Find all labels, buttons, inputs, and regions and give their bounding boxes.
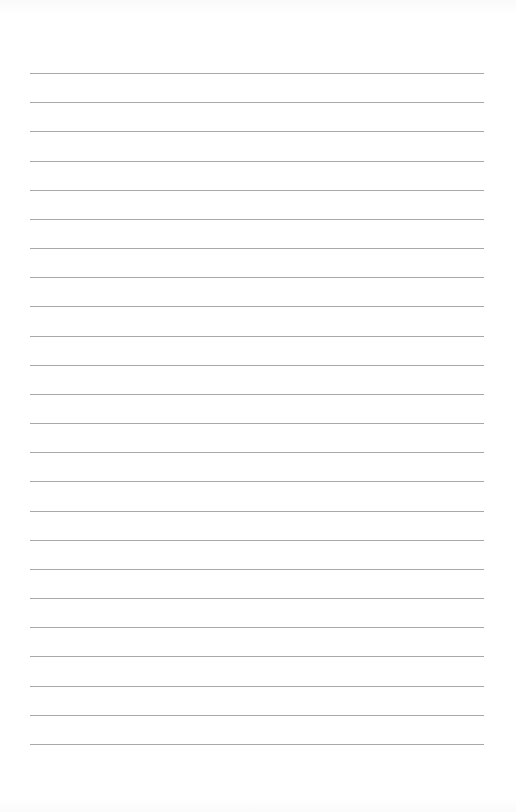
ruled-line <box>30 161 484 162</box>
ruled-line <box>30 744 484 745</box>
ruled-lines <box>0 0 516 812</box>
ruled-line <box>30 511 484 512</box>
ruled-line <box>30 686 484 687</box>
ruled-line <box>30 423 484 424</box>
ruled-line <box>30 569 484 570</box>
ruled-line <box>30 102 484 103</box>
ruled-line <box>30 336 484 337</box>
bottom-bleed-through <box>0 798 516 812</box>
ruled-line <box>30 715 484 716</box>
ruled-line <box>30 481 484 482</box>
ruled-line <box>30 277 484 278</box>
ruled-line <box>30 452 484 453</box>
ruled-line <box>30 190 484 191</box>
ruled-line <box>30 131 484 132</box>
ruled-line <box>30 248 484 249</box>
ruled-line <box>30 219 484 220</box>
ruled-line <box>30 598 484 599</box>
ruled-line <box>30 73 484 74</box>
ruled-line <box>30 394 484 395</box>
ruled-line <box>30 627 484 628</box>
ruled-line <box>30 306 484 307</box>
ruled-line <box>30 656 484 657</box>
ruled-line <box>30 365 484 366</box>
ruled-line <box>30 540 484 541</box>
